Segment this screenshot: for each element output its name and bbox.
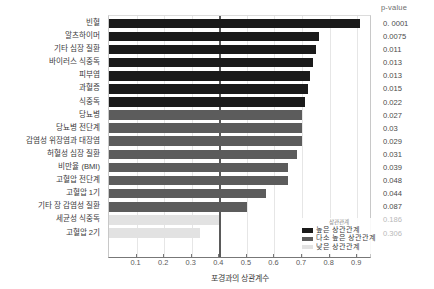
pvalue-cell: 0.048 (383, 174, 433, 187)
bar-row (109, 17, 370, 30)
pvalue-cell: 0.013 (383, 69, 433, 82)
legend-swatch (302, 237, 313, 241)
bar[interactable] (109, 136, 302, 146)
pvalue-cell: 0.011 (383, 43, 433, 56)
pvalue-cell: 0.0075 (383, 30, 433, 43)
category-axis-labels: 빈혈알츠하이머기타 심장 질환바이러스 식중독피부염과혈증식중독당뇨병당뇨병 전… (0, 16, 104, 239)
pvalue-column: 0. 00010.00750.0110.0130.0130.0150.0220.… (383, 17, 433, 240)
category-label: 당뇨병 전단계 (0, 121, 104, 134)
bar[interactable] (109, 176, 288, 186)
bar[interactable] (109, 110, 302, 120)
category-label: 빈혈 (0, 16, 104, 29)
bar-row (109, 161, 370, 174)
legend-title: 상관관계 (302, 220, 376, 226)
x-tick-label: 0.5 (241, 258, 251, 267)
category-label: 감염성 위장염과 대장염 (0, 134, 104, 147)
bar[interactable] (109, 19, 360, 29)
category-label: 고혈압 2기 (0, 226, 104, 239)
bar-row (109, 174, 370, 187)
category-label: 알츠하이머 (0, 29, 104, 42)
pvalue-cell: 0.013 (383, 56, 433, 69)
correlation-bar-chart: p-value 0. 00010.00750.0110.0130.0130.01… (0, 0, 434, 289)
bar-row (109, 135, 370, 148)
bar[interactable] (109, 84, 308, 94)
bar-row (109, 200, 370, 213)
pvalue-cell: 0.306 (383, 227, 433, 240)
pvalue-column-header: p-value (381, 3, 431, 12)
legend-label: 낮은 상관관계 (316, 244, 360, 251)
x-tick-label: 0.6 (268, 258, 278, 267)
legend-swatch (302, 245, 313, 249)
bar[interactable] (109, 215, 219, 225)
x-axis-title: 포경과의 상관계수 (108, 272, 372, 283)
legend-item[interactable]: 낮은 상관관계 (302, 244, 376, 251)
bar[interactable] (109, 45, 316, 55)
bar-row (109, 43, 370, 56)
x-tick-label: 0.1 (130, 258, 140, 267)
category-label: 허혈성 심장 질환 (0, 147, 104, 160)
bar[interactable] (109, 58, 313, 68)
legend-items: 높은 상관관계다소 높은 상관관계낮은 상관관계 (302, 227, 376, 251)
legend: 상관관계 높은 상관관계다소 높은 상관관계낮은 상관관계 (299, 218, 379, 254)
x-tick-label: 0.8 (323, 258, 333, 267)
pvalue-cell: 0.087 (383, 200, 433, 213)
bar-row (109, 82, 370, 95)
bar[interactable] (109, 97, 305, 107)
pvalue-cell: 0. 0001 (383, 17, 433, 30)
bar-row (109, 96, 370, 109)
pvalue-cell: 0.044 (383, 187, 433, 200)
category-label: 당뇨병 (0, 108, 104, 121)
bar-row (109, 69, 370, 82)
pvalue-cell: 0.039 (383, 161, 433, 174)
legend-swatch (302, 228, 313, 232)
bar-row (109, 187, 370, 200)
category-label: 비만율 (BMI) (0, 160, 104, 173)
x-axis-ticks: 0.10.20.30.40.50.60.70.80.9 (108, 258, 372, 270)
category-label: 기타 심장 질환 (0, 42, 104, 55)
x-tick-label: 0.2 (158, 258, 168, 267)
pvalue-cell: 0.03 (383, 122, 433, 135)
bar[interactable] (109, 32, 319, 42)
bar[interactable] (109, 163, 288, 173)
bar-row (109, 109, 370, 122)
category-label: 식중독 (0, 95, 104, 108)
bar[interactable] (109, 202, 247, 212)
bar[interactable] (109, 228, 200, 238)
legend-label: 다소 높은 상관관계 (316, 235, 376, 242)
x-tick-label: 0.7 (296, 258, 306, 267)
legend-item[interactable]: 다소 높은 상관관계 (302, 235, 376, 242)
bar[interactable] (109, 150, 297, 160)
pvalue-cell: 0.022 (383, 96, 433, 109)
bar[interactable] (109, 71, 310, 81)
bar[interactable] (109, 189, 266, 199)
bar[interactable] (109, 123, 302, 133)
pvalue-cell: 0.027 (383, 109, 433, 122)
pvalue-cell: 0.015 (383, 82, 433, 95)
category-label: 고혈압 1기 (0, 186, 104, 199)
x-tick-label: 0.3 (186, 258, 196, 267)
category-label: 기타 장 감염성 질환 (0, 199, 104, 212)
bar-row (109, 30, 370, 43)
x-tick-label: 0.4 (213, 258, 223, 267)
category-label: 고혈압 전단계 (0, 173, 104, 186)
bar-row (109, 148, 370, 161)
x-tick-label: 0.9 (351, 258, 361, 267)
category-label: 세균성 식중독 (0, 212, 104, 225)
bar-row (109, 56, 370, 69)
pvalue-cell: 0.031 (383, 148, 433, 161)
category-label: 과혈증 (0, 81, 104, 94)
category-label: 바이러스 식중독 (0, 55, 104, 68)
pvalue-cell: 0.186 (383, 213, 433, 226)
bar-row (109, 122, 370, 135)
pvalue-cell: 0.029 (383, 135, 433, 148)
category-label: 피부염 (0, 68, 104, 81)
